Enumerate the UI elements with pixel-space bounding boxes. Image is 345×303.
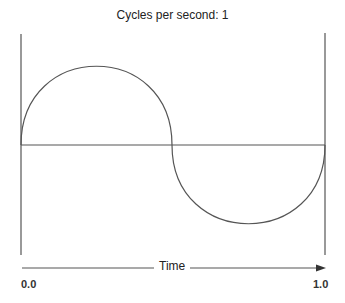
x-axis-end-label: 1.0 xyxy=(313,278,328,290)
arrow-head-icon xyxy=(316,265,326,272)
x-axis-label: Time xyxy=(154,259,190,273)
x-axis-start-label: 0.0 xyxy=(21,278,36,290)
sine-wave-diagram xyxy=(0,0,345,303)
